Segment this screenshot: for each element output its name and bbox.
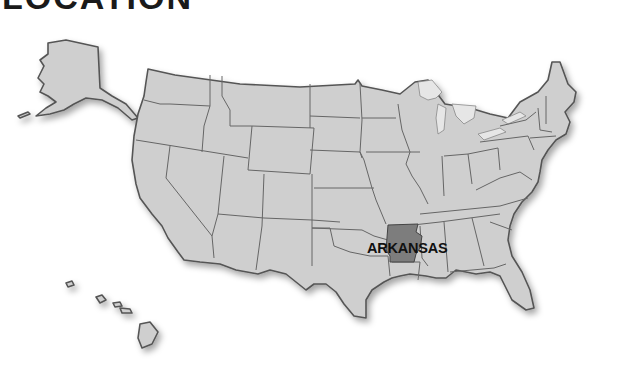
us-locator-map <box>0 0 626 387</box>
alaska-inset <box>18 40 138 120</box>
contiguous-us <box>132 62 576 318</box>
arkansas-label: ARKANSAS <box>367 240 448 256</box>
hawaii-inset <box>66 281 158 348</box>
